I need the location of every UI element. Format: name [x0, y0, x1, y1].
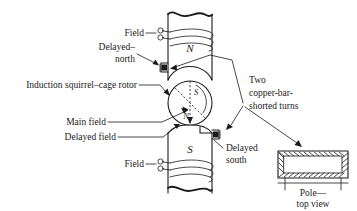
lower-pole-break-line [168, 187, 212, 191]
induction-rotor: S N [168, 81, 212, 125]
label-delayed-field: Delayed field [65, 132, 117, 142]
label-delayed-south-line1: Delayed [226, 143, 258, 153]
label-delayed-north-line2: north [115, 54, 135, 64]
leader-copper-bar-upper-arrow [170, 65, 177, 71]
label-pole-top-view-line2: top view [297, 199, 330, 209]
lower-shading-coil [200, 127, 220, 139]
leader-delayed-north [137, 54, 155, 63]
label-copper-bar-line3: shorted turns [249, 101, 299, 111]
label-pole-top-view-line1: Pole— [300, 188, 327, 198]
upper-shading-coil-bar [162, 65, 168, 71]
upper-shading-coil [160, 63, 168, 72]
lower-pole-face [168, 125, 212, 133]
upper-pole-break-line [168, 12, 212, 16]
leader-copper-bar-lower-arrow [226, 124, 233, 131]
lower-pole-letter: S [187, 143, 193, 155]
lower-terminal-lead-1 [163, 162, 170, 163]
label-field-bottom: Field [124, 159, 144, 169]
lower-shading-coil-bar [213, 132, 219, 138]
upper-terminal-lead-1 [163, 31, 170, 32]
shaded-pole-motor-diagram: N [0, 0, 357, 211]
leader-copper-bar-topview-arrow [295, 140, 303, 147]
upper-pole-letter: N [185, 42, 194, 54]
leader-delayed-field [118, 127, 176, 137]
label-induction-rotor: Induction squirrel–cage rotor [26, 80, 138, 90]
leader-delayed-south [214, 140, 223, 148]
upper-terminal-lead-2 [163, 38, 170, 39]
lower-coil-turn-3 [170, 174, 212, 182]
pole-top-view-drawing [278, 151, 348, 190]
label-copper-bar-line1: Two [249, 75, 266, 85]
lower-pole-assembly: S [158, 125, 220, 193]
leader-copper-bar-topview [245, 107, 297, 143]
upper-terminal-circle-1 [158, 28, 163, 33]
lower-terminal-circle-2 [158, 166, 163, 171]
figure-canvas: N [0, 0, 357, 211]
label-main-field: Main field [66, 117, 106, 127]
label-copper-bar-line2: copper-bar- [249, 88, 293, 98]
lower-terminal-circle-1 [158, 159, 163, 164]
lower-field-coil [170, 160, 213, 182]
upper-terminal-circle-2 [158, 35, 163, 40]
leader-copper-bar-lower [231, 106, 243, 125]
lower-terminal-lead-2 [163, 169, 170, 170]
label-delayed-north-line1: Delayed– [99, 42, 136, 52]
label-field-top: Field [124, 28, 144, 38]
leader-induction-rotor [139, 85, 166, 92]
pole-top-inner-rect [284, 156, 342, 173]
upper-pole-assembly: N [158, 12, 213, 80]
label-delayed-south-line2: south [226, 155, 247, 165]
